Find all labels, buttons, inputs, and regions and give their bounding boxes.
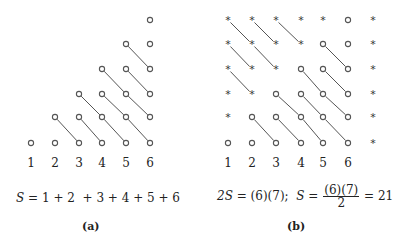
circle-marker [99,91,104,96]
circle-marker [99,66,104,71]
asterisk-marker: * [370,63,376,76]
diagonal-line [326,96,346,114]
equation-b-s: S [296,189,304,203]
circle-marker [147,66,152,71]
diagonal-line [81,96,100,115]
equation-b-fraction: (6)(7) 2 [323,184,359,209]
equation-a-lhs: S [16,191,24,205]
panel-b-caption: (b) [287,220,305,233]
circle-marker [345,17,350,22]
asterisk-marker: * [298,14,304,27]
asterisk-marker: * [370,88,376,101]
asterisk-marker: * [225,111,231,124]
column-label: 5 [122,156,130,170]
diagonal-line [104,119,124,141]
asterisk-marker: * [249,38,255,51]
asterisk-marker: * [273,14,279,27]
circle-marker [320,140,325,145]
column-label: 6 [344,156,352,170]
equation-a-rhs: 1 + 2 + 3 + 4 + 5 + 6 [42,191,180,205]
circle-marker [28,140,33,145]
circle-marker [249,140,254,145]
circle-marker [225,140,230,145]
circle-marker [123,66,128,71]
diagonal-line [303,120,320,141]
equation-b-equals-2: = [308,189,318,203]
panel-b-equation: 2S = (6)(7); S = (6)(7) 2 = 21 [217,184,393,209]
diagonal-line [278,120,298,141]
equation-a-equals: = [28,191,38,205]
asterisk-marker: * [273,63,279,76]
asterisk-marker: * [249,14,255,27]
circle-marker [76,114,81,119]
circle-marker [273,91,278,96]
diagonal-line [303,97,320,115]
circle-marker [99,140,104,145]
circle-marker [147,140,152,145]
circle-marker [76,140,81,145]
diagonal-line [81,119,100,141]
panel-b-dot-rectangle: *********************123456 [224,14,376,170]
asterisk-marker: * [225,88,231,101]
asterisk-marker: * [249,63,255,76]
circle-marker [345,66,350,71]
circle-marker [249,114,254,119]
column-label: 4 [98,156,106,170]
column-label: 1 [27,156,35,170]
circle-marker [320,41,325,46]
diagonal-line [230,47,249,67]
equation-b-equals-1: = [237,189,247,203]
circle-marker [52,140,57,145]
circle-marker [320,114,325,119]
circle-marker [99,114,104,119]
circle-marker [273,140,278,145]
asterisk-marker: * [320,14,326,27]
circle-marker [298,140,303,145]
column-label: 2 [248,156,256,170]
asterisk-marker: * [298,38,304,51]
equation-b-equals-3: = [364,189,374,203]
circle-marker [123,41,128,46]
column-label: 2 [51,156,59,170]
panel-a-dot-triangle: 123456 [27,17,154,170]
circle-marker [345,41,350,46]
circle-marker [123,91,128,96]
diagonal-line [254,47,273,67]
asterisk-marker: * [370,137,376,150]
diagonal-line [128,46,148,67]
diagonal-line [128,119,148,141]
circle-marker [147,41,152,46]
circle-marker [147,17,152,22]
circle-marker [298,114,303,119]
circle-marker [320,91,325,96]
equation-b-product: (6)(7); [251,189,289,203]
equation-b-result: 21 [378,189,393,203]
asterisk-marker: * [273,38,279,51]
column-label: 4 [297,156,305,170]
circle-marker [76,91,81,96]
diagonal-line [325,46,345,66]
circle-marker [52,114,57,119]
circle-marker [298,91,303,96]
circle-marker [147,91,152,96]
diagonal-line [279,22,299,41]
equation-b-2s: 2S [217,189,233,203]
asterisk-marker: * [249,88,255,101]
diagonal-line [104,96,124,115]
diagonal-line [279,96,299,114]
circle-marker [123,114,128,119]
fraction-denominator: 2 [323,197,359,209]
circle-marker [345,114,350,119]
asterisk-marker: * [370,14,376,27]
diagonal-line [254,22,273,41]
diagonal-line [57,119,77,141]
asterisk-marker: * [370,38,376,51]
diagonal-line [230,72,249,92]
column-label: 3 [272,156,280,170]
diagonal-line [325,120,345,141]
circle-marker [298,66,303,71]
circle-marker [123,140,128,145]
circle-marker [320,66,325,71]
circle-marker [147,114,152,119]
diagonal-line [104,71,124,92]
